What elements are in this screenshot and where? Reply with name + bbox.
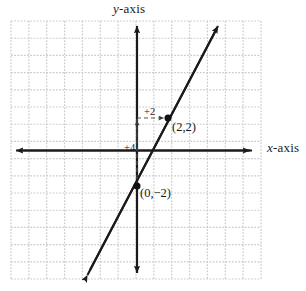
coordinate-plane-svg [0,0,306,291]
graph-figure: y-axis x-axis (2,2) (0,−2) +2 +4 [0,0,306,291]
rise-label: +4 [124,142,135,153]
point-label-2-2: (2,2) [172,120,196,135]
x-axis-suffix: -axis [273,140,299,155]
x-axis-label: x-axis [267,140,299,156]
point-marker-2-2 [165,115,172,122]
y-axis-label: y-axis [113,1,145,17]
point-label-0-neg2: (0,−2) [140,186,171,201]
y-axis-suffix: -axis [119,1,145,16]
run-label: +2 [144,106,155,117]
